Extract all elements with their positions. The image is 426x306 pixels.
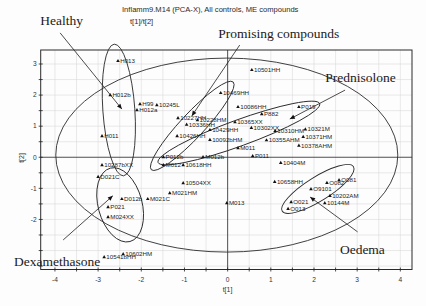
score-point: 10618HH [181,161,211,168]
score-point: 10092bHM [208,136,242,143]
x-tick-label: -1 [182,276,188,283]
score-point: 10355AHM [265,136,300,143]
chart-title: Inflamm9.M14 (PCA-X), All controls, ME c… [122,5,299,14]
point-label: 10504XX [185,179,210,186]
point-label: 10618HH [185,161,211,168]
point-label: P011 [255,152,270,159]
score-point: P011 [251,152,270,159]
score-point: H011 [100,132,119,139]
pca-score-plot: Inflamm9.M14 (PCA-X), All controls, ME c… [0,0,426,306]
score-point: 10086HH [236,103,266,110]
point-label: 10228HM [200,116,227,123]
point-label: 10658HH [277,178,303,185]
point-label: 10245L [159,101,180,108]
group-annotations: HealthyPromising compoundsPrednisoloneDe… [14,13,396,269]
score-point: M021C [146,195,170,202]
point-label: 10602HM [125,250,152,257]
score-point: 10426HH [175,132,205,139]
point-label: 10371HM [305,133,332,140]
score-point: H012a [135,106,158,113]
score-point: 10302XX [250,124,279,131]
point-label: H012b [112,91,131,98]
x-tick-label: 0 [226,276,230,283]
point-label: M021C [150,195,170,202]
y-tick-label: 0 [33,154,37,161]
score-point: 10245L [155,101,180,108]
score-point: P012b [162,153,184,160]
point-label: 10302XX [254,124,279,131]
point-label: M011 [240,144,256,151]
score-point: 10228HM [196,116,227,123]
point-label: 10469HH [223,89,249,96]
x-tick-label: 2 [312,276,316,283]
score-point: D012b [120,195,143,202]
point-label: O9101 [313,185,332,192]
score-point: D021C [96,173,120,180]
x-tick-label: -2 [138,276,144,283]
y-tick-label: 2 [33,91,37,98]
score-point: 10371HM [301,133,332,140]
x-axis-label: t[1] [223,286,233,294]
point-label: M021HM [172,189,197,196]
pca-score-plot-figure: Inflamm9.M14 (PCA-X), All controls, ME c… [0,0,426,306]
point-label: 10202AM [332,192,359,199]
y-tick-label: 3 [33,60,37,67]
score-point: 10469HH [219,89,249,96]
hotelling-t2-ellipse [56,58,398,252]
y-tick-label: -1 [31,185,37,192]
score-point: M012b [201,153,224,160]
score-point: O013 [286,205,306,212]
point-label: 10310HM [277,127,304,134]
point-label: O013 [290,205,306,212]
score-point: P021 [106,203,125,210]
annotation-arrow-line [63,196,113,240]
score-point: M011 [236,144,256,151]
point-label: 10501HH [254,66,280,73]
annotation-label: Oedema [340,242,385,257]
point-label: 10086HH [240,103,266,110]
arrowhead-icon [310,197,315,202]
annotation-label: Dexamethasone [14,254,100,269]
point-label: M013 [229,199,245,206]
y-axis-label: t[2] [18,153,26,163]
score-point: 10602HM [121,250,152,257]
x-tick-label: -3 [95,276,101,283]
annotation-arrow-line [192,45,240,116]
score-point: O9101 [309,185,332,192]
score-point: M021HM [168,189,197,196]
score-point: M013 [225,199,245,206]
score-point: 10501HH [250,66,280,73]
score-point: 10378AHM [297,142,332,149]
annotation-label: Healthy [40,13,83,28]
x-tick-label: 4 [399,276,403,283]
point-label: 10429HH [212,126,238,133]
point-label: M012b [205,153,224,160]
point-label: P012b [166,153,184,160]
score-point: 10658HH [273,178,303,185]
score-point: M012 [162,161,182,168]
score-point: 10404M [279,159,305,166]
annotation-label: Promising compounds [218,26,339,41]
score-point: H013 [116,57,135,64]
score-point: 10504XX [181,179,210,186]
score-point: 10287bXX [100,161,133,168]
annotation-arrow-line [290,90,345,119]
point-label: H011 [104,132,119,139]
point-label: 10144M [327,199,349,206]
point-label: M024XX [110,213,134,220]
score-point: 10144M [323,199,349,206]
point-label: H012a [139,106,158,113]
point-label: 10092bHM [212,136,242,143]
point-label: 10404M [283,159,305,166]
x-tick-label: 1 [269,276,273,283]
chart-subtitle: t[1]/t[2] [130,17,153,26]
point-label: D012b [124,195,143,202]
point-label: 10426HH [179,132,205,139]
point-label: 10355AHM [269,136,300,143]
point-label: 10378AHM [301,142,332,149]
point-label: H013 [120,57,135,64]
x-tick-label: 3 [355,276,359,283]
x-tick-label: -4 [52,276,58,283]
point-label: M012 [166,161,182,168]
point-label: P882 [264,110,279,117]
